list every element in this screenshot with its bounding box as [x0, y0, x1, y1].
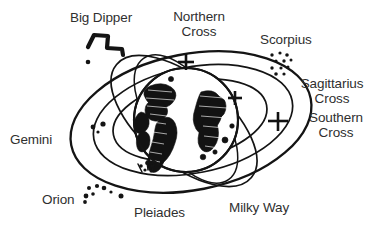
label-sagittarius-cross: Sagittarius Cross — [285, 76, 379, 106]
label-sagittarius-cross-line1: Sagittarius — [285, 76, 379, 91]
label-sagittarius-cross-line2: Cross — [285, 91, 379, 106]
earth-globe — [134, 68, 238, 173]
label-southern-cross-line2: Cross — [292, 125, 380, 140]
label-orion: Orion — [42, 192, 75, 207]
label-southern-cross: Southern Cross — [292, 110, 380, 140]
big-dipper-marker — [86, 35, 123, 64]
label-gemini: Gemini — [10, 132, 52, 147]
label-northern-cross: Northern Cross — [163, 9, 235, 39]
label-pleiades: Pleiades — [134, 205, 185, 220]
astronomy-diagram: Big Dipper Northern Cross Scorpius Sagit… — [0, 0, 382, 237]
label-northern-cross-line1: Northern — [163, 9, 235, 24]
label-southern-cross-line1: Southern — [292, 110, 380, 125]
label-scorpius: Scorpius — [260, 32, 312, 47]
label-big-dipper: Big Dipper — [70, 10, 132, 25]
label-milky-way: Milky Way — [229, 200, 289, 215]
label-northern-cross-line2: Cross — [163, 24, 235, 39]
